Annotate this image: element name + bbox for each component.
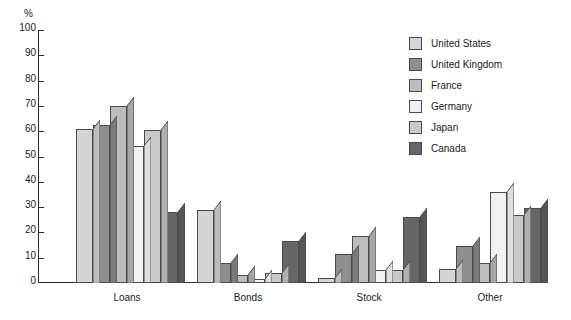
bar-side-face (93, 120, 100, 283)
bar-side-face (524, 206, 531, 283)
bar-side-face (248, 266, 255, 283)
bar-side-face (127, 97, 134, 283)
bar-side-face (299, 232, 306, 283)
legend-swatch-icon (409, 79, 422, 92)
bar-front-face (439, 269, 456, 283)
bar-side-face (335, 269, 342, 283)
y-axis-tick-label: 0 (30, 276, 36, 286)
bar-side-face (456, 260, 463, 283)
bar-side-face (282, 264, 289, 283)
bar-side-face (161, 121, 168, 283)
legend-item-label: Japan (431, 122, 458, 133)
y-axis-tick-mark (38, 182, 44, 183)
y-axis-tick-label: 10 (25, 251, 36, 261)
y-axis-tick-label: 50 (25, 150, 36, 160)
x-axis-category-label: Bonds (197, 292, 299, 303)
y-axis-tick-label: 30 (25, 200, 36, 210)
bar-side-face (231, 254, 238, 283)
bar-group: Bonds (197, 30, 306, 283)
bar-side-face (178, 203, 185, 283)
legend: United StatesUnited KingdomFranceGermany… (409, 33, 569, 159)
y-axis-tick-label: 70 (25, 99, 36, 109)
y-axis-tick-mark (38, 157, 44, 158)
legend-item[interactable]: Canada (409, 138, 569, 159)
x-axis-category-label: Stock (318, 292, 420, 303)
y-axis-tick-mark (38, 106, 44, 107)
y-axis-tick-label: 80 (25, 74, 36, 84)
x-axis-category-label: Loans (76, 292, 178, 303)
legend-swatch-icon (409, 100, 422, 113)
bar-chart: % 1009080706050403020100 LoansBondsStock… (0, 0, 571, 320)
legend-swatch-icon (409, 142, 422, 155)
bar[interactable] (197, 201, 214, 283)
bar[interactable] (318, 269, 335, 283)
legend-item-label: United Kingdom (431, 59, 502, 70)
legend-item-label: France (431, 80, 462, 91)
legend-item[interactable]: United States (409, 33, 569, 54)
legend-item[interactable]: France (409, 75, 569, 96)
bar-side-face (265, 270, 272, 283)
y-axis-tick-mark (38, 55, 44, 56)
bar-side-face (386, 261, 393, 283)
bar-side-face (490, 254, 497, 283)
bar-front-face (76, 129, 93, 283)
bar-side-face (403, 261, 410, 283)
legend-item-label: Germany (431, 101, 472, 112)
bar-side-face (110, 116, 117, 283)
bar-front-face (318, 278, 335, 283)
y-axis-tick-mark (38, 258, 44, 259)
y-axis-tick-label: 60 (25, 124, 36, 134)
bar-side-face (352, 245, 359, 283)
y-axis-tick-label: 100 (19, 23, 36, 33)
y-axis-tick-mark (38, 81, 44, 82)
legend-item-label: United States (431, 38, 491, 49)
bar-side-face (541, 199, 548, 283)
legend-item-label: Canada (431, 143, 466, 154)
bar-side-face (144, 137, 151, 283)
legend-item[interactable]: United Kingdom (409, 54, 569, 75)
y-axis-tick-mark (38, 30, 44, 31)
bar-side-face (507, 183, 514, 283)
legend-item[interactable]: Japan (409, 117, 569, 138)
y-axis-tick-label: 90 (25, 48, 36, 58)
y-axis-tick-label: 40 (25, 175, 36, 185)
legend-swatch-icon (409, 37, 422, 50)
legend-swatch-icon (409, 58, 422, 71)
y-axis-tick-mark (38, 131, 44, 132)
y-axis-tick-mark (38, 207, 44, 208)
bar[interactable] (76, 120, 93, 283)
bar-front-face (197, 210, 214, 283)
legend-swatch-icon (409, 121, 422, 134)
bar[interactable] (439, 260, 456, 283)
bar-side-face (420, 208, 427, 283)
y-axis-tick-mark (38, 232, 44, 233)
bar-side-face (473, 237, 480, 283)
legend-item[interactable]: Germany (409, 96, 569, 117)
bar-side-face (369, 227, 376, 283)
x-axis-category-label: Other (439, 292, 541, 303)
y-axis-tick-label: 20 (25, 225, 36, 235)
y-axis-unit-label: % (24, 8, 33, 19)
bar-side-face (214, 201, 221, 283)
bar-group: Loans (76, 30, 185, 283)
